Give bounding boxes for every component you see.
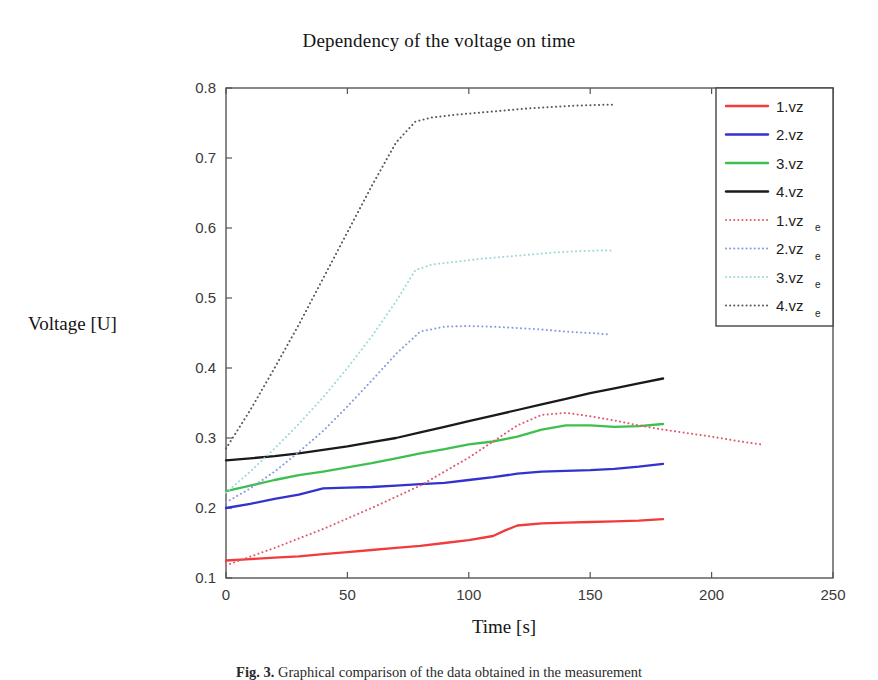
x-tick-label: 150 bbox=[578, 586, 603, 603]
x-tick-label: 0 bbox=[222, 586, 230, 603]
legend-label-8: 4.vz bbox=[776, 297, 804, 314]
y-tick-label: 0.4 bbox=[195, 359, 216, 376]
legend-label-subscript-8: e bbox=[815, 308, 821, 319]
figure-root: Dependency of the voltage on time Voltag… bbox=[0, 0, 878, 680]
y-tick-label: 0.5 bbox=[195, 289, 216, 306]
y-tick-label: 0.3 bbox=[195, 429, 216, 446]
legend-label-3: 3.vz bbox=[776, 155, 804, 172]
legend-label-6: 2.vz bbox=[776, 240, 804, 257]
caption-number: Fig. 3. bbox=[236, 664, 274, 680]
legend-label-subscript-5: e bbox=[815, 222, 821, 233]
y-tick-label: 0.2 bbox=[195, 499, 216, 516]
legend-box bbox=[716, 88, 833, 326]
legend-label-1: 1.vz bbox=[776, 98, 804, 115]
legend-label-7: 3.vz bbox=[776, 269, 804, 286]
legend-label-5: 1.vz bbox=[776, 212, 804, 229]
figure-caption: Fig. 3. Graphical comparison of the data… bbox=[0, 664, 878, 680]
y-tick-label: 0.7 bbox=[195, 149, 216, 166]
x-axis-label: Time [s] bbox=[0, 616, 878, 638]
x-tick-label: 100 bbox=[456, 586, 481, 603]
legend-label-2: 2.vz bbox=[776, 126, 804, 143]
caption-text: Graphical comparison of the data obtaine… bbox=[278, 664, 642, 680]
y-tick-label: 0.8 bbox=[195, 79, 216, 96]
legend-label-subscript-6: e bbox=[815, 251, 821, 262]
y-tick-label: 0.1 bbox=[195, 569, 216, 586]
plot-canvas: 0501001502002500.10.20.30.40.50.60.70.81… bbox=[0, 0, 878, 680]
legend-label-subscript-7: e bbox=[815, 279, 821, 290]
legend-label-4: 4.vz bbox=[776, 183, 804, 200]
x-tick-label: 250 bbox=[820, 586, 845, 603]
y-tick-label: 0.6 bbox=[195, 219, 216, 236]
x-tick-label: 200 bbox=[699, 586, 724, 603]
x-tick-label: 50 bbox=[339, 586, 356, 603]
